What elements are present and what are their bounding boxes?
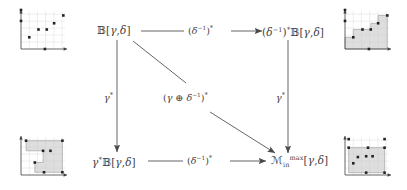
- node-top-right: (δ−1)*𝔹[γ,δ]: [262, 25, 324, 37]
- node-bottom-left-text: γ*𝔹[γ,δ]: [92, 156, 136, 168]
- edge-label-bottom-text: (δ−1)*: [187, 155, 212, 166]
- edge-label-right-text: γ*: [276, 92, 285, 103]
- thumb-top-left-plot: [12, 6, 72, 58]
- node-top-left: 𝔹[γ,δ]: [97, 25, 131, 36]
- node-top-left-text: 𝔹[γ,δ]: [97, 24, 131, 36]
- edge-label-top: (δ−1)*: [188, 25, 213, 36]
- edge-diagonal-arrow-lower: [210, 112, 275, 153]
- node-bottom-right-text: ℳinmax[γ,δ]: [271, 154, 328, 166]
- node-top-right-text: (δ−1)*𝔹[γ,δ]: [262, 26, 324, 38]
- thumb-top-right-plot: [336, 6, 396, 58]
- edge-label-left: γ*: [104, 92, 113, 103]
- thumb-top-right: [336, 6, 396, 58]
- edge-label-right: γ*: [276, 92, 285, 103]
- commutative-diagram-figure: 𝔹[γ,δ] (δ−1)*𝔹[γ,δ] γ*𝔹[γ,δ] ℳinmax[γ,δ]…: [0, 0, 407, 190]
- thumb-top-left: [12, 6, 72, 58]
- edge-label-diagonal: (γ ⊕ δ−1)*: [163, 92, 208, 103]
- thumb-bottom-left-plot: [12, 132, 72, 184]
- node-bottom-right: ℳinmax[γ,δ]: [271, 155, 328, 166]
- edge-label-diagonal-text: (γ ⊕ δ−1)*: [163, 92, 208, 103]
- edge-diagonal-arrow-upper: [133, 41, 186, 83]
- thumb-bottom-right: [336, 132, 396, 184]
- edge-label-top-text: (δ−1)*: [188, 25, 213, 36]
- edge-label-bottom: (δ−1)*: [187, 155, 212, 166]
- thumb-bottom-right-plot: [336, 132, 396, 184]
- node-bottom-left: γ*𝔹[γ,δ]: [92, 155, 136, 167]
- edge-label-left-text: γ*: [104, 92, 113, 103]
- thumb-bottom-left: [12, 132, 72, 184]
